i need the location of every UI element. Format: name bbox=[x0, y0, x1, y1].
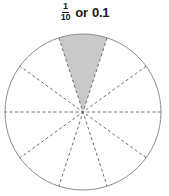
fraction-one-tenth: 1 10 bbox=[60, 2, 72, 22]
caption-connector: or bbox=[75, 5, 88, 20]
fraction-denominator: 10 bbox=[60, 13, 72, 23]
pie-svg bbox=[0, 24, 169, 196]
pie-diagram bbox=[0, 24, 169, 196]
caption-decimal: 0.1 bbox=[92, 5, 109, 20]
fraction-numerator: 1 bbox=[62, 2, 69, 13]
fraction-pie-figure: 1 10 or 0.1 bbox=[0, 0, 169, 196]
figure-caption: 1 10 or 0.1 bbox=[0, 1, 169, 23]
